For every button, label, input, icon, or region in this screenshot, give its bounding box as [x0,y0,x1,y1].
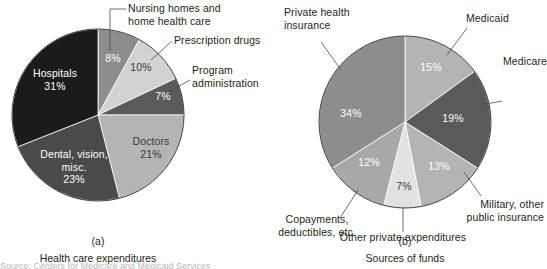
slice-label-dental-line1: Dental, vision, [32,148,116,161]
callout-nursing-homes-line2: home health care [128,15,221,28]
slice-label-doctors: Doctors 21% [122,135,180,160]
callout-program-administration-line2: administration [192,77,259,90]
slice-label-dental-line2: misc. [32,161,116,174]
panel-b-letter: (b) [365,235,445,247]
slice-label-military-other-public-pct: 13% [423,160,455,173]
leader-medicaid [447,28,467,55]
slice-label-private-health-insurance-pct: 34% [334,107,368,120]
slice-label-hospitals-line1: Hospitals [22,67,88,80]
callout-program-administration-line1: Program [192,64,259,77]
callout-medicare-line1: Medicare [503,55,547,68]
callout-private-health-insurance-line1: Private health [284,6,350,19]
slice-label-dental-vision-misc: Dental, vision, misc. 23% [32,148,116,186]
slice-label-program-administration-pct: 7% [148,90,178,103]
panel-b-caption: Sources of funds [345,252,465,265]
callout-private-health-insurance: Private health insurance [284,6,350,31]
slice-label-other-private-expenditures-pct: 7% [390,180,418,193]
panel-a-letter: (a) [58,235,138,247]
slice-label-hospitals-line2: 31% [22,80,88,93]
slice-label-doctors-line1: Doctors [122,135,180,148]
callout-military-other-public: Military, other public insurance [416,198,544,223]
callout-prescription-drugs: Prescription drugs [174,34,260,47]
callout-military-other-public-line2: public insurance [416,211,544,224]
callout-copayments-deductibles-line2: deductibles, etc. [258,226,376,239]
slice-label-medicaid-pct: 15% [413,61,449,74]
slice-label-copayments-deductibles-pct: 12% [353,156,385,169]
pie-chart-figure: 8% 10% 7% Doctors 21% Dental, vision, mi… [0,0,547,269]
callout-prescription-drugs-line1: Prescription drugs [174,34,260,47]
slice-label-dental-line3: 23% [32,173,116,186]
slice-label-medicare-pct: 19% [436,112,470,125]
callout-military-other-public-line1: Military, other [416,198,544,211]
leader-private-health-insurance [321,42,341,70]
slice-label-prescription-drugs-pct: 10% [122,61,160,74]
callout-copayments-deductibles-line1: Copayments, [258,213,376,226]
callout-medicaid-line1: Medicaid [466,12,509,25]
callout-medicaid: Medicaid [466,12,509,25]
callout-nursing-homes-line1: Nursing homes and [128,2,221,15]
callout-nursing-homes: Nursing homes and home health care [128,2,221,27]
callout-copayments-deductibles: Copayments, deductibles, etc. [258,213,376,238]
callout-medicare: Medicare [503,55,547,68]
slice-label-doctors-line2: 21% [122,148,180,161]
callout-private-health-insurance-line2: insurance [284,19,350,32]
callout-program-administration: Program administration [192,64,259,89]
figure-source-note: Source: Centers for Medicare and Medicai… [0,261,260,269]
slice-label-hospitals: Hospitals 31% [22,67,88,92]
